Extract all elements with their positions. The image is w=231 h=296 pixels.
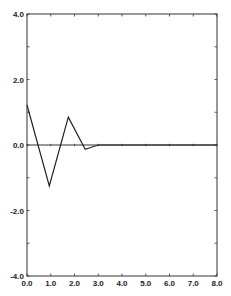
x-tick-label: 3.0 [93,279,105,288]
x-tick-label: 2.0 [69,279,81,288]
x-tick-label: 0.0 [21,279,33,288]
x-tick-label: 5.0 [140,279,152,288]
y-tick-label: 0.0 [13,141,25,150]
line-chart: 4.02.00.0-2.0-4.0 0.01.02.03.04.05.06.07… [0,0,231,296]
x-tick-label: 4.0 [116,279,128,288]
x-tick-label: 6.0 [164,279,176,288]
x-tick-label: 8.0 [211,279,223,288]
y-tick-label: -2.0 [10,207,24,216]
x-axis-tick-labels: 0.01.02.03.04.05.06.07.08.0 [21,279,223,288]
x-tick-label: 7.0 [188,279,200,288]
y-tick-label: 4.0 [13,10,25,19]
x-tick-label: 1.0 [45,279,57,288]
y-axis-tick-labels: 4.02.00.0-2.0-4.0 [10,10,24,281]
y-tick-label: 2.0 [13,76,25,85]
